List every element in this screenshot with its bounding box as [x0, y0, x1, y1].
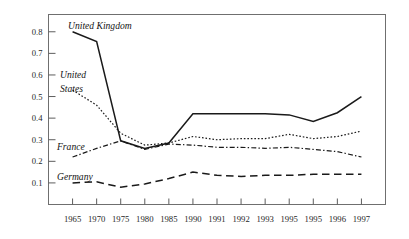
y-tick-label-0.4: 0.4 [32, 113, 43, 123]
y-tick-label-0.3: 0.3 [32, 135, 43, 145]
x-tick-label-9: 1995 [281, 214, 298, 224]
x-tick-label-10: 1995 [305, 214, 322, 224]
series-label-germany: Germany [57, 171, 93, 182]
y-tick-label-0.5: 0.5 [32, 92, 43, 102]
x-tick-label-4: 1985 [160, 214, 177, 224]
y-tick-label-0.7: 0.7 [32, 48, 43, 58]
x-tick-label-8: 1993 [256, 214, 273, 224]
x-tick-label-11: 1996 [329, 214, 347, 224]
y-tick-label-0.2: 0.2 [32, 156, 43, 166]
y-tick-label-0.8: 0.8 [32, 27, 43, 37]
series-label-united-states-line2: States [60, 83, 83, 94]
x-tick-label-12: 1997 [353, 214, 371, 224]
x-tick-label-7: 1992 [232, 214, 249, 224]
line-chart: 0.10.20.30.40.50.60.70.8 196519701975198… [0, 0, 409, 239]
chart-plot-area: 0.10.20.30.40.50.60.70.8 196519701975198… [0, 0, 409, 239]
series-label-france: France [56, 141, 85, 152]
x-tick-label-0: 1965 [64, 214, 81, 224]
series-label-united-kingdom: United Kingdom [68, 20, 132, 31]
y-tick-label-0.1: 0.1 [32, 178, 43, 188]
x-tick-label-3: 1980 [136, 214, 154, 224]
x-tick-label-1: 1970 [88, 214, 106, 224]
y-tick-label-0.6: 0.6 [32, 70, 43, 80]
x-tick-label-2: 1975 [112, 214, 129, 224]
x-tick-label-5: 1990 [184, 214, 202, 224]
chart-background [0, 0, 409, 239]
x-tick-label-6: 1991 [208, 214, 225, 224]
series-label-united-states-line1: United [60, 69, 86, 80]
